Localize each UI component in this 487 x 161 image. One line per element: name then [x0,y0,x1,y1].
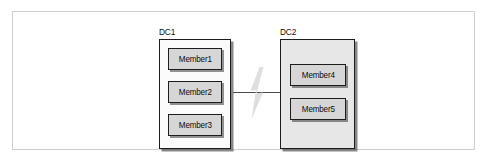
outer-frame: DC1 Member1 Member2 Member3 DC2 Member4 … [12,11,475,150]
member-node-member4: Member4 [290,64,346,86]
member-node-member3: Member3 [168,114,222,136]
network-link-line [233,92,280,93]
member-node-member5: Member5 [290,98,346,120]
datacenter-box-dc2 [280,39,355,149]
member-node-member2: Member2 [168,81,222,103]
datacenter-label-dc2: DC2 [280,26,296,37]
datacenter-label-dc1: DC1 [159,26,175,37]
member-node-label: Member3 [179,120,212,130]
diagram-canvas: DC1 Member1 Member2 Member3 DC2 Member4 … [0,0,487,161]
member-node-label: Member5 [302,104,335,114]
member-node-member1: Member1 [168,48,222,70]
member-node-label: Member1 [179,54,212,64]
member-node-label: Member2 [179,87,212,97]
member-node-label: Member4 [302,70,335,80]
